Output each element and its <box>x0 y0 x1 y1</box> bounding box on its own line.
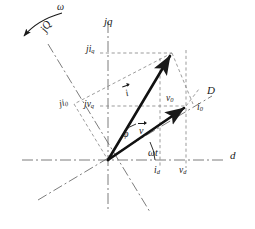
phasor-diagram-canvas <box>0 0 255 229</box>
D-axis-label: D <box>207 85 215 96</box>
v-d-sub: d <box>183 168 186 175</box>
phi-angle-label: φ <box>123 129 129 139</box>
voltage-vector-symbol: v <box>139 126 143 136</box>
projection-jQ-foot-to-origin <box>74 104 108 160</box>
jv-q-label: jvq <box>84 100 94 110</box>
v-0-label: v0 <box>166 94 173 104</box>
omega-rotation-label: ω <box>57 2 64 12</box>
ji-q-sub: q <box>91 47 94 54</box>
current-phasor-vector <box>108 56 170 160</box>
phasor-diagram-figure: ω jQ jq d D jiq ji0 jvq v0 i0 id vd i v … <box>0 0 255 229</box>
jQ-axis-line <box>48 44 150 212</box>
jv-q-sub: q <box>91 102 94 109</box>
omega-t-angle-label: ωt <box>148 148 158 158</box>
d-axis-label: d <box>230 150 236 161</box>
i-d-sub: d <box>157 168 160 175</box>
projection-current-to-D <box>172 53 193 104</box>
v-d-label: vd <box>179 166 186 176</box>
i-d-label: id <box>154 166 160 176</box>
i-0-label: i0 <box>197 103 203 113</box>
ji-q-label: jiq <box>86 45 95 55</box>
voltage-vector-label: v <box>139 126 143 136</box>
jv-q-base: jv <box>84 99 91 109</box>
jq-axis-label: jq <box>104 16 113 27</box>
v-0-sub: 0 <box>170 96 173 103</box>
voltage-phasor-vector <box>108 108 184 160</box>
i-0-sub: 0 <box>200 105 203 112</box>
